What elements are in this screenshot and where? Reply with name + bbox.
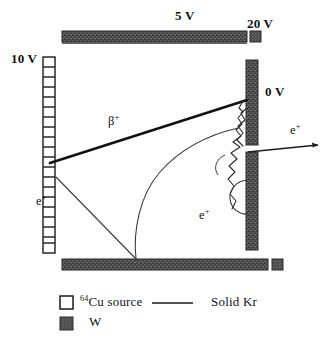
legend-open-square-symbol <box>60 296 73 309</box>
tungsten-bottom-bar <box>62 259 268 270</box>
beta-plus-label: β+ <box>108 112 120 129</box>
voltage-label-left: 10 V <box>11 51 37 67</box>
tungsten-top-bar <box>62 31 247 43</box>
beta-plus-track <box>50 100 247 163</box>
legend-label-solid-kr: Solid Kr <box>211 294 257 310</box>
voltage-label-right: 0 V <box>265 84 285 100</box>
legend-label-cu-source: 64Cu source <box>80 294 143 310</box>
voltage-label-top-right: 20 V <box>247 16 273 32</box>
positron-charge-right: + <box>296 121 301 131</box>
beta-charge: + <box>115 112 120 122</box>
tungsten-corner-pad-bottom <box>272 259 283 270</box>
positron-charge-center: + <box>205 206 210 216</box>
positron-curved-track <box>135 128 238 259</box>
legend-filled-square-symbol <box>60 317 73 330</box>
diagram-artwork <box>0 0 334 341</box>
legend-label-tungsten: W <box>89 314 101 330</box>
positron-label-center: e+ <box>199 206 210 223</box>
figure-canvas: 5 V 20 V 10 V 0 V β+ e+ e+ e+ 64Cu sourc… <box>0 0 334 341</box>
positron-label-left: e+ <box>36 192 47 209</box>
positron-track-left <box>56 177 137 260</box>
positron-label-right: e+ <box>290 121 301 138</box>
cu-source-ladder <box>43 57 55 253</box>
positron-charge-left: + <box>42 192 47 202</box>
cu-source-text: Cu source <box>88 294 142 309</box>
voltage-label-top: 5 V <box>175 8 195 24</box>
tungsten-right-bar <box>246 60 258 250</box>
tungsten-corner-pad-top <box>250 31 261 42</box>
